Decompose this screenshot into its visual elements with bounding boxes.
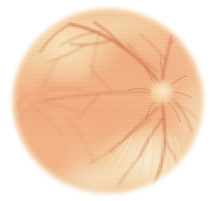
fundus-image-viewport: Color fundus photograph of the retina Ci… (0, 0, 217, 201)
retinal-fundus-photograph: Circular color fundus photograph showing… (0, 0, 217, 201)
fundus-field-of-view (0, 0, 217, 201)
scanline-artifact-overlay (0, 0, 217, 201)
